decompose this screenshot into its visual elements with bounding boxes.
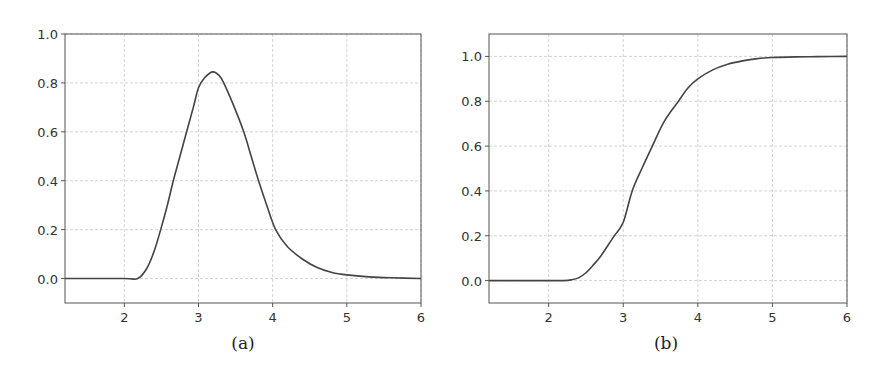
x-tick-label: 5 xyxy=(343,310,351,325)
chart-panel-b: 234560.00.20.40.60.81.0 (b) xyxy=(438,0,876,382)
x-tick-label: 6 xyxy=(417,310,425,325)
y-tick-label: 1.0 xyxy=(461,49,482,64)
y-tick-label: 0.8 xyxy=(461,94,482,109)
x-tick-label: 4 xyxy=(269,310,277,325)
x-tick-label: 2 xyxy=(545,310,553,325)
y-tick-label: 0.2 xyxy=(461,229,482,244)
grid-lines xyxy=(65,34,421,303)
x-tick-label: 3 xyxy=(194,310,202,325)
y-tick-label: 0.0 xyxy=(37,272,58,287)
x-tick-label: 2 xyxy=(120,310,128,325)
y-tick-label: 0.2 xyxy=(37,223,58,238)
grid-lines xyxy=(489,34,847,303)
axes-frame xyxy=(489,34,847,303)
y-tick-label: 0.4 xyxy=(461,184,482,199)
chart-b-plot: 234560.00.20.40.60.81.0 xyxy=(438,0,876,382)
chart-panel-a: 234560.00.20.40.60.81.0 (a) xyxy=(0,0,438,382)
series-line-pdf xyxy=(65,72,421,279)
x-tick-label: 6 xyxy=(843,310,851,325)
chart-a-caption: (a) xyxy=(231,333,254,353)
y-tick-label: 0.4 xyxy=(37,174,58,189)
y-tick-label: 0.0 xyxy=(461,274,482,289)
y-tick-label: 0.6 xyxy=(37,125,58,140)
x-tick-label: 4 xyxy=(694,310,702,325)
chart-b-caption: (b) xyxy=(654,333,678,353)
chart-a-plot: 234560.00.20.40.60.81.0 xyxy=(0,0,438,382)
y-tick-label: 0.8 xyxy=(37,76,58,91)
x-tick-label: 5 xyxy=(768,310,776,325)
axes-frame xyxy=(65,34,421,303)
y-tick-label: 1.0 xyxy=(37,27,58,42)
series-line-cdf xyxy=(489,56,847,280)
x-tick-label: 3 xyxy=(619,310,627,325)
y-tick-label: 0.6 xyxy=(461,139,482,154)
